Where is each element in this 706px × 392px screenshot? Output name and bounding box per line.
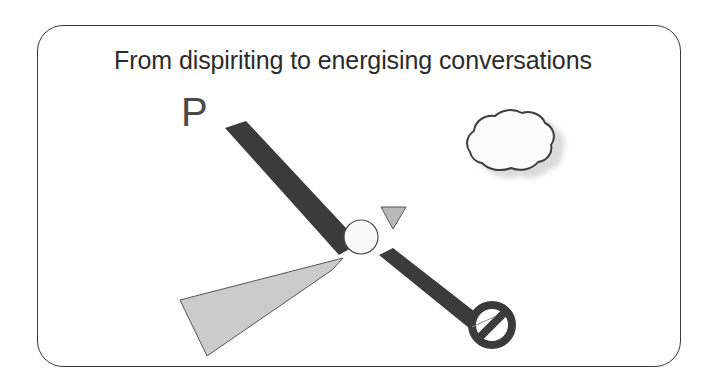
light-blade-lower-left (180, 258, 343, 356)
small-triangle-marker (381, 207, 406, 229)
cloud-shape (467, 110, 554, 170)
dark-blade-upper-left (225, 121, 360, 255)
prohibition-sign (472, 305, 512, 345)
hub-circle (344, 220, 378, 254)
pinwheel-diagram (0, 0, 706, 392)
slide-root: From dispiriting to energising conversat… (0, 0, 706, 392)
dark-blade-lower-right (379, 248, 479, 328)
